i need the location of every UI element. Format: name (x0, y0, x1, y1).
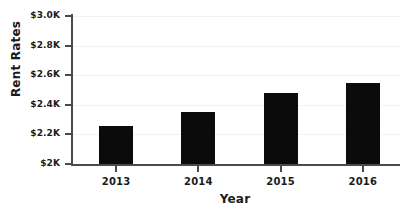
bar-chart: Rent Rates $2K$2.2K$2.4K$2.6K$2.8K$3.0K … (0, 0, 404, 213)
gridline (73, 46, 400, 47)
x-tick-mark (115, 166, 117, 172)
y-tick-mark (65, 133, 72, 135)
plot-area: $2K$2.2K$2.4K$2.6K$2.8K$3.0K 20132014201… (71, 14, 400, 166)
y-tick-mark (65, 74, 72, 76)
gridline (73, 16, 400, 17)
y-tick-mark (65, 163, 72, 165)
y-tick-mark (65, 15, 72, 17)
x-tick-mark (197, 166, 199, 172)
bar-2016 (346, 83, 380, 164)
y-tick-label: $2.2K (0, 128, 60, 138)
y-tick-label: $2.8K (0, 40, 60, 50)
bar-2014 (181, 112, 215, 164)
bar-2015 (264, 93, 298, 164)
y-tick-mark (65, 104, 72, 106)
gridline (73, 75, 400, 76)
y-tick-label: $2.6K (0, 69, 60, 79)
y-axis-line (71, 14, 73, 166)
x-tick-label-2014: 2014 (168, 176, 228, 187)
bar-2013 (99, 126, 133, 164)
y-tick-label: $2.4K (0, 99, 60, 109)
x-tick-mark (280, 166, 282, 172)
x-tick-mark (362, 166, 364, 172)
y-tick-label: $3.0K (0, 10, 60, 20)
x-axis-line (71, 164, 400, 166)
x-tick-label-2015: 2015 (251, 176, 311, 187)
y-tick-label: $2K (0, 158, 60, 168)
x-tick-label-2016: 2016 (333, 176, 393, 187)
y-tick-mark (65, 45, 72, 47)
x-axis-title: Year (70, 192, 400, 206)
x-tick-label-2013: 2013 (86, 176, 146, 187)
